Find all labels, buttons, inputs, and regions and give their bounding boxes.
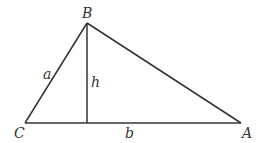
side-a: [25, 23, 87, 123]
side-label-h: h: [91, 74, 100, 90]
vertex-label-c: C: [14, 125, 25, 141]
triangle-diagram: B C A a h b: [0, 0, 262, 143]
vertex-label-b: B: [81, 5, 92, 21]
vertex-label-a: A: [240, 125, 252, 141]
side-label-a: a: [43, 66, 51, 82]
side-label-b: b: [125, 125, 134, 141]
side-c: [87, 23, 241, 123]
